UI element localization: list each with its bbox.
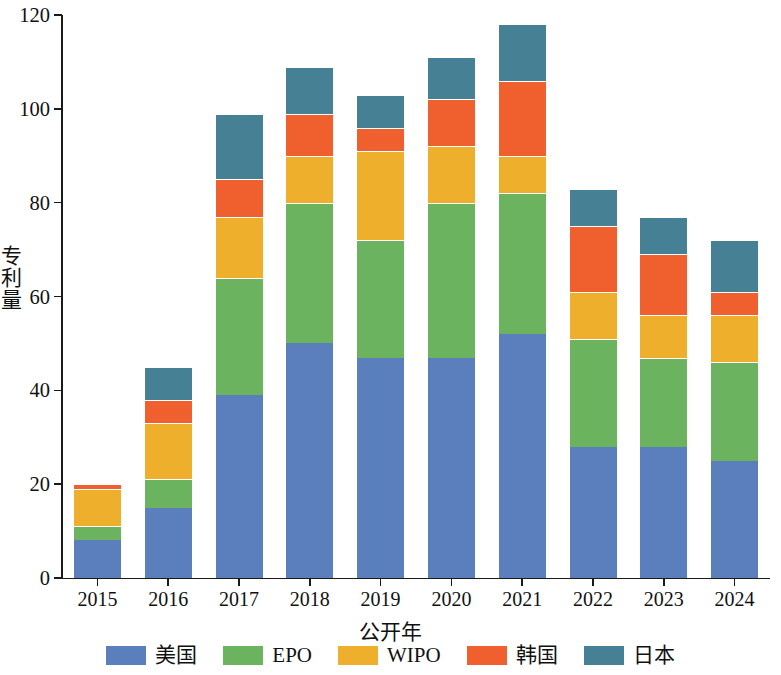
bar-segment-EPO[interactable] (428, 203, 475, 358)
bar-segment-美国[interactable] (428, 358, 475, 579)
y-tick-mark (54, 202, 62, 204)
bar-segment-美国[interactable] (216, 395, 263, 578)
stacked-bar-chart: 020406080100120 201520162017201820192020… (0, 0, 781, 675)
x-axis-title: 公开年 (0, 615, 781, 645)
legend-label: 日本 (633, 645, 675, 666)
x-tick-mark (592, 578, 594, 586)
bar-segment-美国[interactable] (711, 461, 758, 578)
bar-segment-日本[interactable] (711, 240, 758, 292)
y-tick-label: 20 (0, 474, 50, 495)
legend-label: EPO (272, 645, 312, 666)
bar-segment-韩国[interactable] (570, 226, 617, 292)
bar-segment-日本[interactable] (499, 24, 546, 80)
bar-segment-WIPO[interactable] (74, 489, 121, 527)
legend-swatch-icon (584, 646, 624, 665)
bar-segment-WIPO[interactable] (711, 315, 758, 362)
legend-label: 美国 (155, 645, 197, 666)
bar-segment-日本[interactable] (216, 114, 263, 180)
bar-2015[interactable] (74, 0, 121, 578)
bar-segment-美国[interactable] (570, 447, 617, 578)
x-tick-mark (380, 578, 382, 586)
bar-segment-WIPO[interactable] (357, 151, 404, 240)
legend-label: WIPO (387, 645, 441, 666)
bar-segment-美国[interactable] (357, 358, 404, 579)
y-axis-title: 专利量 (0, 246, 24, 311)
bar-2023[interactable] (640, 0, 687, 578)
y-tick-label: 80 (0, 193, 50, 214)
y-tick-mark (54, 577, 62, 579)
bar-segment-美国[interactable] (74, 540, 121, 578)
bar-segment-韩国[interactable] (711, 292, 758, 315)
bar-2022[interactable] (570, 0, 617, 578)
bar-segment-美国[interactable] (499, 334, 546, 578)
bar-segment-日本[interactable] (570, 189, 617, 227)
bar-segment-WIPO[interactable] (499, 156, 546, 194)
bar-segment-韩国[interactable] (145, 400, 192, 423)
x-tick-label: 2024 (690, 589, 780, 609)
x-tick-mark (97, 578, 99, 586)
bar-segment-WIPO[interactable] (145, 423, 192, 479)
y-tick-mark (54, 390, 62, 392)
bar-segment-EPO[interactable] (286, 203, 333, 344)
x-tick-mark (451, 578, 453, 586)
bar-segment-EPO[interactable] (499, 193, 546, 334)
x-tick-mark (167, 578, 169, 586)
bar-segment-EPO[interactable] (711, 362, 758, 461)
y-tick-label: 0 (0, 568, 50, 589)
chart-legend: 美国EPOWIPO韩国日本 (0, 645, 781, 666)
legend-item-WIPO[interactable]: WIPO (338, 645, 441, 666)
bar-2018[interactable] (286, 0, 333, 578)
bar-segment-美国[interactable] (640, 447, 687, 578)
bar-2019[interactable] (357, 0, 404, 578)
bar-segment-EPO[interactable] (640, 358, 687, 447)
legend-swatch-icon (338, 646, 378, 665)
bar-segment-美国[interactable] (145, 508, 192, 578)
bar-2017[interactable] (216, 0, 263, 578)
bar-segment-WIPO[interactable] (216, 217, 263, 278)
bar-segment-韩国[interactable] (216, 179, 263, 217)
bar-segment-日本[interactable] (286, 67, 333, 114)
legend-item-美国[interactable]: 美国 (106, 645, 197, 666)
bar-segment-EPO[interactable] (570, 339, 617, 447)
bar-segment-美国[interactable] (286, 343, 333, 578)
bar-segment-韩国[interactable] (499, 81, 546, 156)
bar-2021[interactable] (499, 0, 546, 578)
y-tick-mark (54, 483, 62, 485)
legend-swatch-icon (467, 646, 507, 665)
x-tick-mark (521, 578, 523, 586)
legend-swatch-icon (223, 646, 263, 665)
bar-segment-WIPO[interactable] (286, 156, 333, 203)
bar-segment-EPO[interactable] (74, 526, 121, 540)
legend-swatch-icon (106, 646, 146, 665)
legend-item-韩国[interactable]: 韩国 (467, 645, 558, 666)
bar-segment-日本[interactable] (428, 57, 475, 99)
bar-segment-韩国[interactable] (640, 254, 687, 315)
bar-segment-EPO[interactable] (145, 479, 192, 507)
y-tick-label: 40 (0, 380, 50, 401)
legend-item-日本[interactable]: 日本 (584, 645, 675, 666)
bar-segment-韩国[interactable] (357, 128, 404, 151)
x-tick-mark (238, 578, 240, 586)
bar-segment-日本[interactable] (357, 95, 404, 128)
bar-2020[interactable] (428, 0, 475, 578)
legend-item-EPO[interactable]: EPO (223, 645, 312, 666)
y-tick-mark (54, 108, 62, 110)
bar-2024[interactable] (711, 0, 758, 578)
y-tick-label: 100 (0, 99, 50, 120)
bar-segment-WIPO[interactable] (570, 292, 617, 339)
bar-segment-韩国[interactable] (428, 99, 475, 146)
legend-label: 韩国 (516, 645, 558, 666)
y-tick-mark (54, 14, 62, 16)
bar-segment-EPO[interactable] (216, 278, 263, 395)
bar-segment-WIPO[interactable] (428, 146, 475, 202)
bar-segment-WIPO[interactable] (640, 315, 687, 357)
x-tick-mark (309, 578, 311, 586)
x-tick-mark (663, 578, 665, 586)
bar-segment-日本[interactable] (640, 217, 687, 255)
bar-segment-韩国[interactable] (286, 114, 333, 156)
bar-2016[interactable] (145, 0, 192, 578)
y-tick-label: 120 (0, 5, 50, 26)
bar-segment-EPO[interactable] (357, 240, 404, 357)
x-tick-mark (734, 578, 736, 586)
bar-segment-日本[interactable] (145, 367, 192, 400)
